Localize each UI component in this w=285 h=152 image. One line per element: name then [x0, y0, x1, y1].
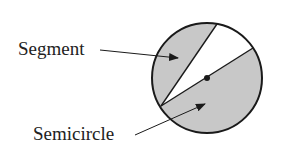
segment-label: Segment — [18, 38, 85, 59]
center-point — [204, 75, 210, 81]
circle-diagram: Segment Semicircle — [0, 0, 285, 152]
semicircle-label: Semicircle — [33, 123, 114, 144]
diagram-canvas: Segment Semicircle — [0, 0, 285, 152]
